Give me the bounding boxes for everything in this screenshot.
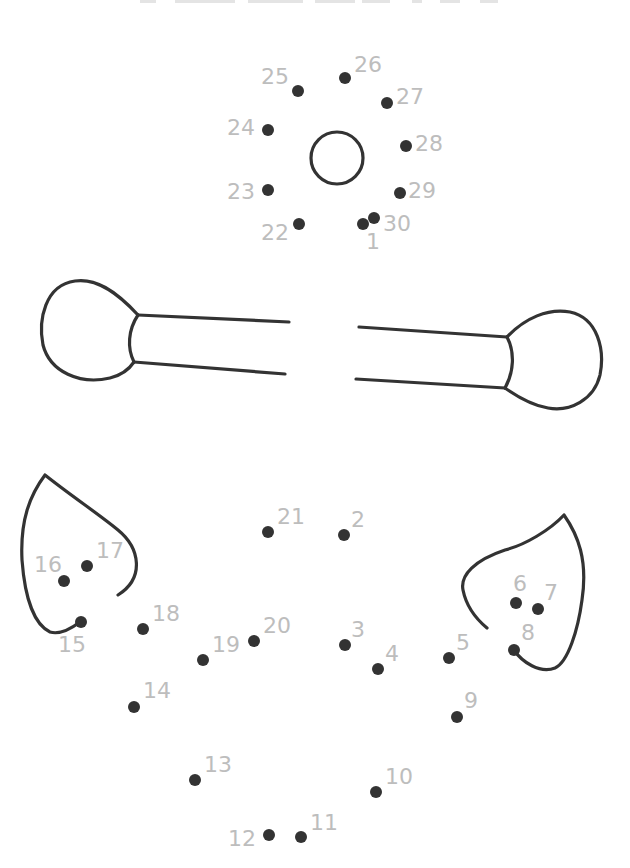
dot-26: 26 [339, 52, 382, 84]
dot-11: 11 [295, 810, 338, 843]
dot-marker [262, 184, 274, 196]
dot-29: 29 [394, 178, 436, 203]
dot-number-label: 29 [408, 178, 436, 203]
dot-number-label: 12 [228, 826, 256, 851]
dot-marker [451, 711, 463, 723]
dot-23: 23 [227, 179, 274, 204]
dot-to-dot-worksheet: 1234567891011121314151617181920212223242… [0, 0, 630, 868]
dot-number-label: 15 [58, 632, 86, 657]
dot-number-label: 16 [34, 552, 62, 577]
dot-marker [263, 829, 275, 841]
dot-19: 19 [197, 632, 240, 666]
dot-13: 13 [189, 752, 232, 786]
dot-10: 10 [370, 764, 413, 798]
title-fragment [140, 0, 498, 3]
dot-number-label: 24 [227, 115, 255, 140]
dot-3: 3 [339, 617, 365, 651]
dot-marker [293, 218, 305, 230]
dot-16: 16 [34, 552, 70, 587]
dot-marker [295, 831, 307, 843]
dot-marker [262, 124, 274, 136]
dot-25: 25 [261, 64, 304, 97]
dot-marker [381, 97, 393, 109]
dot-number-label: 3 [351, 617, 365, 642]
dot-number-label: 4 [385, 641, 399, 666]
dot-number-label: 14 [143, 678, 171, 703]
dot-number-label: 25 [261, 64, 289, 89]
dot-number-label: 26 [354, 52, 382, 77]
dot-number-label: 17 [96, 538, 124, 563]
right-bone-outline [356, 311, 601, 409]
dot-marker [338, 529, 350, 541]
dot-8: 8 [508, 620, 535, 656]
dot-5: 5 [443, 630, 470, 664]
dot-marker [508, 644, 520, 656]
dot-24: 24 [227, 115, 274, 140]
dot-number-label: 30 [383, 211, 411, 236]
dot-marker [189, 774, 201, 786]
dot-number-label: 9 [464, 688, 478, 713]
nose-circle-outline [311, 132, 363, 184]
dot-14: 14 [128, 678, 171, 713]
dot-marker [532, 603, 544, 615]
dot-2: 2 [338, 507, 365, 541]
dot-18: 18 [137, 601, 180, 635]
dot-marker [339, 639, 351, 651]
dot-number-label: 1 [366, 229, 380, 254]
dot-20: 20 [248, 613, 291, 647]
dot-number-label: 2 [351, 507, 365, 532]
dot-marker [370, 786, 382, 798]
dot-6: 6 [510, 571, 527, 609]
dot-number-label: 22 [261, 220, 289, 245]
dots-layer: 1234567891011121314151617181920212223242… [34, 52, 558, 851]
dot-marker [510, 597, 522, 609]
dot-number-label: 21 [277, 504, 305, 529]
dot-15: 15 [58, 616, 87, 657]
dot-number-label: 6 [513, 571, 527, 596]
dot-number-label: 8 [521, 620, 535, 645]
dot-marker [394, 187, 406, 199]
dot-marker [292, 85, 304, 97]
dot-12: 12 [228, 826, 275, 851]
dot-number-label: 23 [227, 179, 255, 204]
dot-number-label: 18 [152, 601, 180, 626]
dot-22: 22 [261, 218, 305, 245]
dot-marker [75, 616, 87, 628]
dot-marker [248, 635, 260, 647]
dot-number-label: 10 [385, 764, 413, 789]
dot-marker [81, 560, 93, 572]
dot-marker [339, 72, 351, 84]
dot-number-label: 28 [415, 131, 443, 156]
dot-number-label: 20 [263, 613, 291, 638]
dot-number-label: 27 [396, 84, 424, 109]
dot-marker [400, 140, 412, 152]
dot-marker [368, 212, 380, 224]
dot-7: 7 [532, 580, 558, 615]
dot-marker [137, 623, 149, 635]
dot-9: 9 [451, 688, 478, 723]
dot-marker [443, 652, 455, 664]
dot-number-label: 13 [204, 752, 232, 777]
dot-4: 4 [372, 641, 399, 675]
dot-number-label: 19 [212, 632, 240, 657]
dot-marker [128, 701, 140, 713]
dot-21: 21 [262, 504, 305, 538]
dot-27: 27 [381, 84, 424, 109]
dot-number-label: 7 [544, 580, 558, 605]
left-bone-outline [42, 281, 289, 380]
dot-number-label: 11 [310, 810, 338, 835]
dot-28: 28 [400, 131, 443, 156]
dot-marker [197, 654, 209, 666]
dot-marker [372, 663, 384, 675]
dot-marker [262, 526, 274, 538]
dot-number-label: 5 [456, 630, 470, 655]
dot-17: 17 [81, 538, 124, 572]
